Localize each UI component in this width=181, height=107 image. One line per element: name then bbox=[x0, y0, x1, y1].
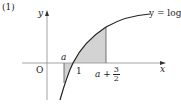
fraction-denominator: 2 bbox=[114, 75, 119, 83]
y-axis-arrow-icon bbox=[45, 10, 49, 16]
upper-limit-fraction: 3 2 bbox=[113, 66, 120, 83]
problem-number: (1) bbox=[2, 3, 15, 12]
one-label: 1 bbox=[76, 67, 82, 76]
upper-limit-prefix: a + bbox=[95, 70, 111, 79]
origin-label: O bbox=[36, 66, 43, 75]
shaded-region-above-axis bbox=[73, 27, 106, 63]
x-axis-label: x bbox=[160, 65, 165, 74]
upper-limit-label: a + 3 2 bbox=[95, 66, 120, 83]
curve-label: y = log x bbox=[149, 9, 181, 18]
a-label: a bbox=[61, 53, 66, 62]
y-axis-label: y bbox=[38, 9, 43, 18]
